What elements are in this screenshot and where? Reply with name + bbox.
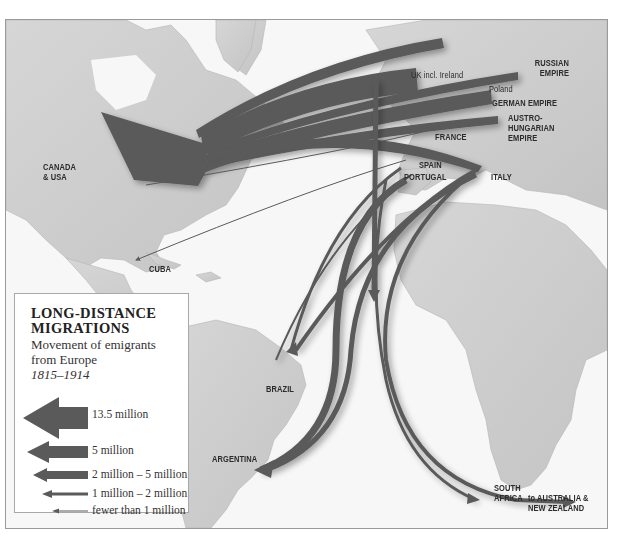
legend-item: 1 million – 2 million	[15, 485, 190, 503]
arrow-sm-icon	[15, 485, 90, 503]
arrow-lg-icon	[15, 440, 90, 464]
label-poland: Poland	[489, 84, 513, 94]
label-scandinavia: SCANDINAVIA	[411, 19, 463, 21]
label-austro-hungarian-empire: AUSTRO- HUNGARIAN EMPIRE	[508, 113, 555, 143]
legend-item: fewer than 1 million	[15, 502, 190, 520]
legend-item-label: fewer than 1 million	[92, 504, 186, 516]
label-argentina: ARGENTINA	[212, 454, 257, 464]
label-portugal: PORTUGAL	[404, 172, 447, 182]
label-australia-nz: to AUSTRALIA & NEW ZEALAND	[528, 493, 589, 513]
arrow-xl-icon	[15, 394, 90, 440]
label-south-africa: SOUTH AFRICA	[494, 483, 523, 503]
legend-title-line2: MIGRATIONS	[31, 321, 188, 336]
legend-subtitle: Movement of emigrants from Europe	[31, 337, 188, 367]
legend-subtitle-line2: from Europe	[31, 352, 188, 367]
label-france: FRANCE	[435, 132, 467, 142]
legend-item-label: 5 million	[92, 444, 134, 456]
legend-title: LONG-DISTANCE MIGRATIONS	[31, 306, 188, 336]
arrow-md-icon	[15, 465, 90, 485]
legend-dates: 1815–1914	[31, 367, 188, 382]
label-brazil: BRAZIL	[266, 384, 294, 394]
legend-item: 13.5 million	[15, 394, 190, 440]
legend-item: 5 million	[15, 440, 190, 464]
legend-subtitle-line1: Movement of emigrants	[31, 337, 188, 352]
legend-item-label: 13.5 million	[92, 408, 148, 420]
legend-item-label: 2 million – 5 million	[92, 468, 187, 480]
label-russian-empire: RUSSIAN EMPIRE	[518, 58, 569, 78]
label-spain: SPAIN	[419, 160, 442, 170]
legend-item-label: 1 million – 2 million	[92, 487, 187, 499]
africa-landmass	[394, 202, 607, 490]
label-canada-usa: CANADA & USA	[43, 162, 76, 182]
legend-title-line1: LONG-DISTANCE	[31, 306, 188, 321]
label-italy: ITALY	[491, 172, 512, 182]
arrow-xs-icon	[15, 502, 90, 520]
label-german-empire: GERMAN EMPIRE	[492, 98, 557, 108]
legend-item: 2 million – 5 million	[15, 465, 190, 485]
legend: LONG-DISTANCE MIGRATIONS Movement of emi…	[14, 293, 189, 513]
label-cuba: CUBA	[149, 264, 171, 274]
label-uk: UK incl. Ireland	[411, 70, 463, 80]
